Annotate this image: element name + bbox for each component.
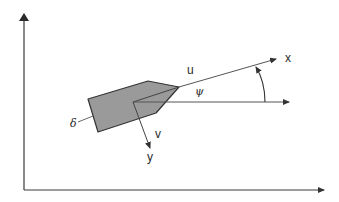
body-y-axis-label: y [147, 151, 153, 163]
ship-kinematics-diagram [0, 0, 339, 202]
ship-hull [88, 81, 179, 132]
rudder-line [78, 116, 93, 122]
sway-velocity-label: v [155, 128, 161, 140]
surge-velocity-label: u [187, 64, 194, 76]
heading-angle-label: ψ [195, 86, 204, 97]
heading-angle-arc [256, 67, 265, 102]
body-x-axis-label: x [285, 52, 291, 64]
rudder-angle-label: δ [70, 118, 77, 129]
